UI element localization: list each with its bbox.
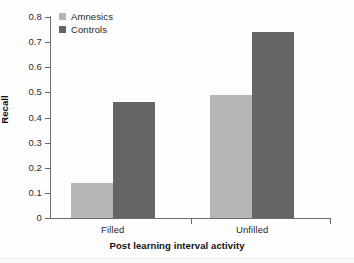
legend-item-amnesics: Amnesics xyxy=(59,11,113,22)
y-tick xyxy=(45,92,50,93)
y-tick-label: 0.6 xyxy=(28,63,42,73)
y-tick-label: 0.7 xyxy=(28,37,42,47)
bar-amnesics-filled xyxy=(71,183,113,218)
legend-label-controls: Controls xyxy=(71,25,107,35)
x-tick xyxy=(191,219,192,224)
x-axis-title: Post learning interval activity xyxy=(0,240,354,251)
bar-chart: 00.10.20.30.40.50.60.70.8 FilledUnfilled… xyxy=(0,0,354,263)
y-tick-label: 0.1 xyxy=(28,188,42,198)
y-tick-label: 0 xyxy=(37,213,42,223)
legend-swatch-icon-controls xyxy=(59,26,66,33)
x-tick xyxy=(330,219,331,224)
y-tick-label: 0.8 xyxy=(28,12,42,22)
legend-swatch-icon-amnesics xyxy=(59,13,66,20)
legend-label-amnesics: Amnesics xyxy=(71,12,113,22)
legend-item-controls: Controls xyxy=(59,24,113,35)
legend: Amnesics Controls xyxy=(59,11,113,37)
plot-area xyxy=(51,17,330,218)
y-tick-label: 0.5 xyxy=(28,88,42,98)
bar-controls-unfilled xyxy=(252,32,294,218)
y-tick-label: 0.3 xyxy=(28,138,42,148)
x-tick-label-filled: Filled xyxy=(101,224,124,235)
y-tick xyxy=(45,143,50,144)
y-tick xyxy=(45,42,50,43)
y-tick-label: 0.4 xyxy=(28,113,42,123)
y-axis-title: Recall xyxy=(0,95,10,124)
y-tick-label: 0.2 xyxy=(28,163,42,173)
y-tick xyxy=(45,168,50,169)
scan-artifact xyxy=(0,258,354,259)
y-tick xyxy=(45,67,50,68)
bar-controls-filled xyxy=(113,102,155,218)
bar-amnesics-unfilled xyxy=(210,95,252,218)
scan-artifact xyxy=(0,261,354,262)
y-tick xyxy=(45,218,50,219)
y-tick xyxy=(45,118,50,119)
x-tick-label-unfilled: Unfilled xyxy=(236,224,268,235)
y-tick xyxy=(45,193,50,194)
y-tick xyxy=(45,17,50,18)
